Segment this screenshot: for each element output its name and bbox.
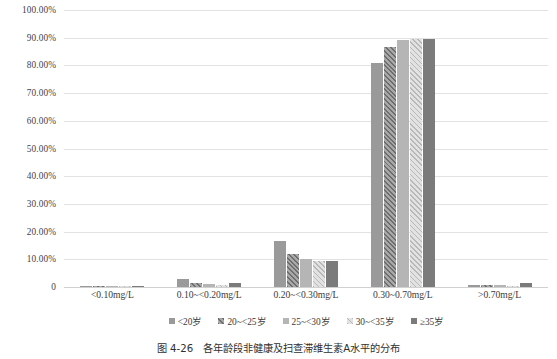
bar-group (354, 10, 451, 287)
bar (119, 286, 131, 287)
y-tick-label: 100.00% (22, 5, 56, 15)
y-tick-label: 90.00% (27, 33, 56, 43)
bar (410, 39, 422, 287)
bar (93, 286, 105, 287)
x-tick-label: 0.30~0.70mg/L (354, 289, 451, 309)
bar (80, 286, 92, 287)
legend-swatch-icon (411, 318, 417, 324)
y-tick-label: 70.00% (27, 88, 56, 98)
bar (300, 259, 312, 287)
legend-swatch-icon (283, 318, 289, 324)
legend-swatch-icon (347, 318, 353, 324)
x-tick-label: <0.10mg/L (64, 289, 161, 309)
chart-legend: <20岁20~<25岁25~<30岁30~<35岁≥35岁 (64, 313, 548, 329)
bar-group (451, 10, 548, 287)
bar-group (258, 10, 355, 287)
bar (216, 285, 228, 287)
legend-item[interactable]: <20岁 (169, 314, 202, 328)
y-tick-label: 50.00% (27, 144, 56, 154)
x-tick-label: 0.20~<0.30mg/L (258, 289, 355, 309)
bar (481, 285, 493, 287)
bar-groups (64, 10, 548, 287)
bar (494, 285, 506, 287)
bar (384, 47, 396, 287)
bar (190, 283, 202, 287)
y-tick-label: 0 (51, 282, 56, 292)
bar (132, 286, 144, 287)
x-tick-label: >0.70mg/L (451, 289, 548, 309)
legend-label: ≥35岁 (420, 314, 444, 328)
chart-figure: 100.00%90.00%80.00%70.00%60.00%50.00%40.… (0, 0, 557, 359)
bar (468, 285, 480, 287)
bar-group (64, 10, 161, 287)
x-tick-label: 0.10~<0.20mg/L (161, 289, 258, 309)
bar (274, 241, 286, 287)
bar (177, 279, 189, 287)
y-tick-label: 60.00% (27, 116, 56, 126)
legend-label: 30~<35岁 (356, 314, 394, 328)
y-tick-label: 20.00% (27, 227, 56, 237)
bar (106, 286, 118, 287)
bar (313, 261, 325, 287)
bar (520, 283, 532, 287)
bar (203, 284, 215, 287)
legend-item[interactable]: 20~<25岁 (218, 314, 265, 328)
bar (326, 261, 338, 287)
y-tick-label: 10.00% (27, 254, 56, 264)
legend-item[interactable]: 30~<35岁 (347, 314, 394, 328)
legend-item[interactable]: ≥35岁 (411, 314, 444, 328)
bar (371, 63, 383, 287)
x-axis-line (64, 287, 548, 288)
bar (229, 283, 241, 287)
bar (423, 39, 435, 287)
legend-item[interactable]: 25~<30岁 (283, 314, 330, 328)
y-tick-label: 40.00% (27, 171, 56, 181)
bar (507, 286, 519, 287)
legend-label: 20~<25岁 (227, 314, 265, 328)
bar-group (161, 10, 258, 287)
legend-swatch-icon (218, 318, 224, 324)
y-axis-labels: 100.00%90.00%80.00%70.00%60.00%50.00%40.… (0, 0, 62, 300)
x-axis-labels: <0.10mg/L0.10~<0.20mg/L0.20~<0.30mg/L0.3… (64, 289, 548, 309)
plot-area: 100.00%90.00%80.00%70.00%60.00%50.00%40.… (0, 0, 557, 300)
bar (287, 254, 299, 287)
figure-caption: 图 4-26 各年龄段非健康及扫查滞维生素A水平的分布 (0, 340, 557, 355)
y-tick-label: 80.00% (27, 60, 56, 70)
bar (397, 40, 409, 287)
legend-label: <20岁 (178, 314, 202, 328)
legend-swatch-icon (169, 318, 175, 324)
y-tick-label: 30.00% (27, 199, 56, 209)
legend-label: 25~<30岁 (292, 314, 330, 328)
